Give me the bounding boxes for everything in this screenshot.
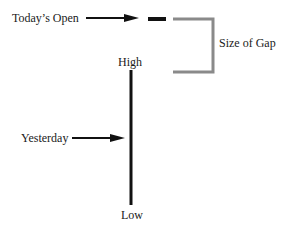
yesterday-arrow <box>72 134 125 142</box>
yesterday-label: Yesterday <box>21 132 68 144</box>
gap-bracket <box>173 19 213 72</box>
gap-diagram <box>0 0 287 229</box>
high-label: High <box>118 56 142 68</box>
low-label: Low <box>121 209 143 221</box>
todays-open-marker <box>148 17 166 21</box>
todays-open-arrow <box>86 14 139 22</box>
size-of-gap-label: Size of Gap <box>219 37 276 49</box>
todays-open-label: Today’s Open <box>12 12 79 24</box>
